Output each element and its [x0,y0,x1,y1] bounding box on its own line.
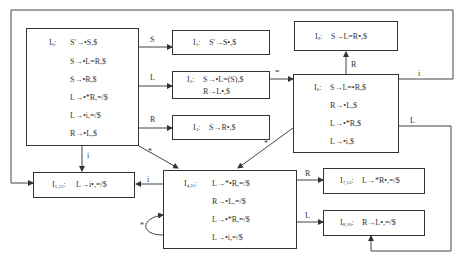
state-i0: I0: S'→•S,$ S→•L=R,$ S→•R,$ L→•*R,=/$ L→… [26,28,139,146]
edge-label-star-self: * [140,222,144,230]
item: L→•i,$ [330,138,354,146]
item: S→R•,$ [209,124,236,132]
item: L→*•R,=/$ [212,180,250,188]
item: R→L•,$ [203,88,230,96]
state-i7-13: I7,13: L→*R•,=/$ [323,168,425,194]
item: L→•i,=/$ [212,234,243,242]
state-i1: I1: S'→S•,$ [172,30,270,55]
edge-i0-i411 [139,146,178,168]
edge-label-i-i411: i [147,176,149,184]
edge-label-r-i411: R [305,170,310,178]
item: S→•L=R,$ [70,58,106,66]
edge-i411-self [146,215,163,235]
state-label: I4,11: [184,180,199,188]
item: S→•L=(S),$ [203,76,243,84]
edge-label-i-i0: i [87,152,89,160]
state-i9: I9: S→L=R•,$ [294,21,398,51]
item: L→•i,=/$ [70,112,101,120]
item: R→L•,=/$ [362,219,396,227]
state-label: I8,10: [340,219,356,227]
item: S→•R,$ [70,76,97,84]
edge-label-s: S [150,36,154,44]
item: S→L=R•,$ [331,33,367,41]
item: L→•*R,$ [330,120,361,128]
lr-automaton-diagram: S L R = R i L * * i i R L * I0: S'→•S,$ … [0,0,460,258]
edge-label-i-top: i [418,70,420,78]
edge-label-r-i9: R [351,61,356,69]
state-label: I2: [187,76,196,84]
state-label: I0: [49,39,58,47]
state-i3: I3: S→R•,$ [172,115,270,140]
state-label: I6: [314,84,323,92]
item: S'→S•,$ [209,39,236,47]
state-label: I3: [193,124,202,132]
state-label: I7,13: [340,177,356,185]
edge-label-star-i6: * [264,140,268,148]
state-label: I9: [315,33,324,41]
item: L→*R•,=/$ [362,177,400,185]
edge-label-l-i411: L [305,212,310,220]
edge-label-star-i0: * [148,148,152,156]
item: S→L=•R,$ [330,84,366,92]
item: L→•*R,=/$ [70,94,108,102]
state-i4-11: I4,11: L→*•R,=/$ R→•L,=/$ L→•*R,=/$ L→•i… [163,170,297,249]
edge-label-l-right: L [410,117,415,125]
edge-label-l: L [150,74,155,82]
state-i2: I2: S→•L=(S),$ R→L•,$ [172,71,270,99]
edge-label-eq: = [275,68,280,76]
item: R→•L,$ [70,130,97,138]
item: L→i•,=/$ [76,181,107,189]
item: R→•L,$ [330,102,357,110]
item: R→•L,=/$ [212,198,246,206]
state-label: I1: [193,39,202,47]
state-i8-10: I8,10: R→L•,=/$ [323,210,425,236]
item: L→•*R,=/$ [212,216,250,224]
state-i6: I6: S→L=•R,$ R→•L,$ L→•*R,$ L→•i,$ [293,74,399,153]
edge-label-r: R [150,116,155,124]
item: S'→•S,$ [70,39,97,47]
state-label: I5,12: [52,181,68,189]
state-i5-12: I5,12: L→i•,=/$ [33,172,135,198]
